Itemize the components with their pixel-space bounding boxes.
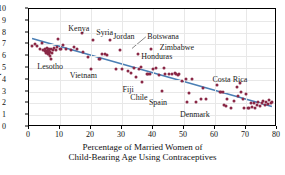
plot-area (28, 8, 276, 126)
data-point (60, 47, 63, 50)
gridline-vertical (215, 9, 216, 125)
data-point (241, 97, 244, 100)
data-point (133, 67, 136, 70)
data-point (237, 95, 240, 98)
y-tick-mark (25, 43, 28, 44)
point-label-honduras: Honduras (141, 53, 172, 61)
y-tick-label: 1 (0, 110, 6, 119)
data-point (86, 55, 89, 58)
scatter-chart: 012345678910 01020304050607080 Births pe… (0, 0, 285, 175)
data-point (62, 43, 65, 46)
data-point (162, 67, 165, 70)
data-point (139, 65, 142, 68)
data-point (200, 97, 203, 100)
gridline-horizontal (29, 44, 275, 45)
x-tick-label: 60 (210, 130, 218, 139)
data-point (76, 48, 79, 51)
data-point (161, 90, 164, 93)
y-tick-mark (25, 8, 28, 9)
x-axis-label-line1: Percentage of Married Women of (0, 142, 285, 152)
x-tick-mark (183, 126, 184, 129)
y-tick-mark (25, 55, 28, 56)
y-tick-label: 0 (0, 122, 6, 131)
data-point (232, 100, 235, 103)
x-tick-mark (152, 126, 153, 129)
x-tick-mark (28, 126, 29, 129)
data-point (155, 67, 158, 70)
gridline-horizontal (29, 21, 275, 22)
x-tick-mark (121, 126, 122, 129)
data-point (204, 97, 207, 100)
data-point (240, 91, 243, 94)
y-tick-mark (25, 19, 28, 20)
data-point (119, 49, 122, 52)
data-point (226, 98, 229, 101)
data-point (65, 48, 68, 51)
point-label-syria: Syria (96, 29, 113, 37)
y-tick-mark (25, 31, 28, 32)
x-tick-label: 30 (117, 130, 125, 139)
x-axis-label-line2: Child-Bearing Age Using Contraceptives (0, 152, 285, 162)
x-tick-label: 50 (179, 130, 187, 139)
x-tick-label: 80 (272, 130, 280, 139)
data-point (245, 92, 248, 95)
data-point (91, 38, 94, 41)
data-point (141, 80, 144, 83)
data-point (90, 67, 93, 70)
data-point (50, 57, 53, 60)
data-point (69, 49, 72, 52)
data-point (220, 90, 223, 93)
point-label-chile: Chile (130, 94, 147, 102)
data-point (229, 106, 232, 109)
x-tick-label: 20 (86, 130, 94, 139)
y-tick-mark (25, 67, 28, 68)
x-axis-label: Percentage of Married Women of Child-Bea… (0, 142, 285, 163)
point-label-vietnam: Vietnam (70, 72, 97, 80)
data-point (41, 42, 44, 45)
data-point (201, 87, 204, 90)
data-point (38, 48, 41, 51)
point-label-lesotho: Lesotho (37, 63, 63, 71)
gridline-vertical (184, 9, 185, 125)
x-tick-label: 10 (55, 130, 63, 139)
y-tick-mark (25, 102, 28, 103)
y-tick-label: 9 (0, 15, 6, 24)
x-tick-label: 0 (26, 130, 30, 139)
point-label-kenya: Kenya (68, 25, 89, 33)
y-tick-label: 10 (0, 4, 6, 13)
y-tick-mark (25, 90, 28, 91)
data-point (184, 78, 187, 81)
y-tick-mark (25, 114, 28, 115)
point-label-denmark: Denmark (180, 111, 210, 119)
data-point (158, 74, 161, 77)
data-point (167, 73, 170, 76)
data-point (195, 100, 198, 103)
data-point (136, 53, 139, 56)
point-label-botswana: Botswana (147, 33, 179, 41)
x-tick-mark (214, 126, 215, 129)
data-point (271, 101, 274, 104)
y-axis-label: Births per Woman (0, 34, 1, 100)
point-label-spain: Spain (149, 99, 167, 107)
data-point (150, 48, 153, 51)
data-point (235, 85, 238, 88)
data-point (130, 72, 133, 75)
x-tick-label: 40 (148, 130, 156, 139)
data-point (224, 105, 227, 108)
x-tick-label: 70 (241, 130, 249, 139)
data-point (258, 105, 261, 108)
data-point (178, 73, 181, 76)
data-point (121, 68, 124, 71)
data-point (105, 54, 108, 57)
data-point (57, 38, 60, 41)
x-tick-mark (276, 126, 277, 129)
data-point (114, 67, 117, 70)
point-label-costa-rica: Costa Rica (212, 76, 247, 84)
data-point (187, 92, 190, 95)
gridline-horizontal (29, 92, 275, 93)
x-tick-mark (59, 126, 60, 129)
y-tick-mark (25, 78, 28, 79)
data-point (186, 101, 189, 104)
gridline-horizontal (29, 115, 275, 116)
data-point (108, 39, 111, 42)
